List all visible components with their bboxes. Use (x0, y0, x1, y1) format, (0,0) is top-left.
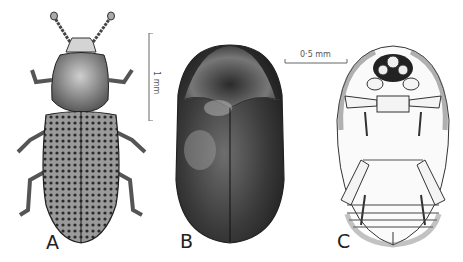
beetle-b-dorsal-illustration (160, 0, 300, 262)
panel-c: C (325, 0, 463, 262)
panel-label-b: B (180, 232, 193, 251)
panel-a: A (0, 0, 160, 262)
beetle-c-ventral-illustration (325, 0, 463, 262)
beetle-a-dorsal-illustration (0, 0, 160, 262)
panel-label-c: C (337, 232, 350, 251)
panel-label-a: A (46, 233, 59, 252)
panel-b: B (160, 0, 300, 262)
